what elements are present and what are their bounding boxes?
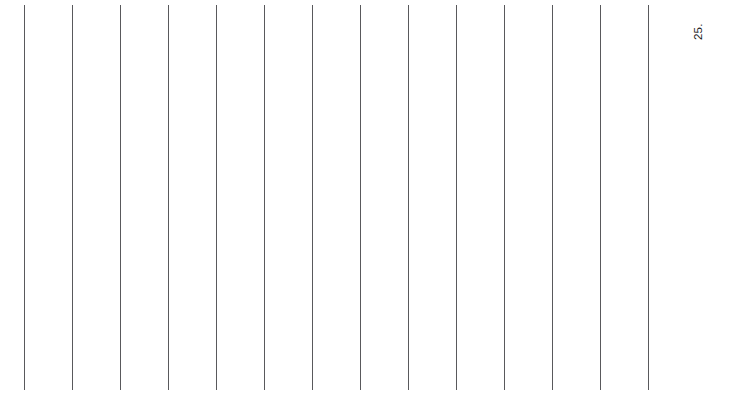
gridline-vertical <box>120 5 121 390</box>
gridline-vertical <box>264 5 265 390</box>
gridline-vertical <box>360 5 361 390</box>
gridline-vertical <box>600 5 601 390</box>
gridline-vertical <box>312 5 313 390</box>
gridline-vertical <box>504 5 505 390</box>
chart-canvas: 25. <box>0 0 743 396</box>
gridline-vertical <box>24 5 25 390</box>
gridline-vertical <box>168 5 169 390</box>
gridline-vertical <box>456 5 457 390</box>
gridline-vertical <box>216 5 217 390</box>
axis-tick-label-25: 25. <box>693 23 705 40</box>
plot-area <box>0 0 743 396</box>
gridline-vertical <box>648 5 649 390</box>
gridline-vertical <box>72 5 73 390</box>
gridline-vertical <box>552 5 553 390</box>
gridline-vertical <box>408 5 409 390</box>
